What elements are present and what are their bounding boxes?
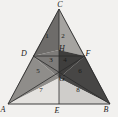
vertex-label-F: F: [85, 49, 91, 58]
region-label-6: 6: [78, 67, 82, 75]
vertex-label-C: C: [57, 0, 63, 9]
region-label-8: 8: [76, 86, 80, 94]
vertex-label-D: D: [20, 49, 27, 58]
vertex-label-E: E: [54, 106, 60, 115]
region-label-4: 4: [63, 56, 67, 64]
region-label-2: 2: [61, 32, 65, 40]
region-label-1: 1: [45, 32, 49, 40]
vertex-label-B: B: [104, 105, 109, 114]
region-label-5: 5: [36, 67, 40, 75]
vertex-label-G: G: [59, 74, 65, 83]
region-label-3: 3: [49, 56, 53, 64]
geometry-diagram: 1 2 3 4 5 6 7 8 C D F H G A E B: [0, 0, 118, 117]
geometry-figure-container: 1 2 3 4 5 6 7 8 C D F H G A E B: [0, 0, 118, 117]
vertex-label-A: A: [0, 105, 6, 114]
region-label-7: 7: [39, 86, 43, 94]
